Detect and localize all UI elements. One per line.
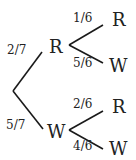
- prob-label-r-r: 1/6: [73, 12, 92, 24]
- prob-label-first-r: 2/7: [7, 44, 26, 56]
- branch-w-to-r: [69, 111, 103, 130]
- prob-label-r-w: 5/6: [73, 57, 92, 69]
- prob-label-first-w: 5/7: [6, 119, 25, 131]
- branch-root-to-r: [13, 52, 42, 91]
- outcome-r-r: R: [112, 11, 126, 29]
- node-w: W: [47, 123, 66, 141]
- prob-label-w-r: 2/6: [73, 98, 92, 110]
- prob-label-w-w: 4/6: [73, 140, 92, 152]
- outcome-w-w: W: [109, 140, 128, 158]
- outcome-r-w: W: [109, 57, 128, 75]
- node-r: R: [49, 38, 63, 56]
- outcome-w-r: R: [112, 98, 126, 116]
- branch-r-to-r: [69, 25, 103, 45]
